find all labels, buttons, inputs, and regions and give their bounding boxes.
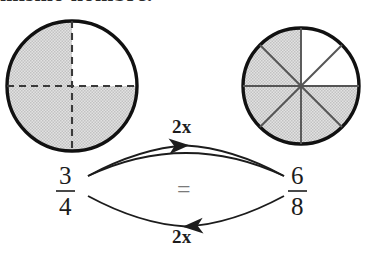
arrow-top-left-half — [88, 146, 186, 177]
arrow-top-label: 2x — [172, 116, 192, 138]
fraction-right-denominator: 8 — [288, 194, 307, 219]
fraction-right-numerator: 6 — [288, 163, 307, 188]
figure-canvas: mismo nombre. — [0, 0, 369, 253]
fraction-left-bar — [56, 190, 75, 192]
fraction-right-bar — [288, 190, 307, 192]
fraction-left-denominator: 4 — [56, 194, 75, 219]
arrow-top-right-half — [186, 146, 284, 177]
fraction-right: 6 8 — [288, 163, 307, 219]
arrow-bottom-label: 2x — [172, 226, 192, 248]
arrow-bottom-right-half — [186, 196, 284, 227]
fraction-left: 3 4 — [56, 163, 75, 219]
arrow-bottom-left-half — [88, 196, 186, 227]
right-pie-chart — [243, 28, 359, 144]
fraction-left-numerator: 3 — [56, 163, 75, 188]
equals-symbol: = — [177, 176, 191, 203]
left-pie-chart — [7, 21, 137, 151]
arrow-top-curve — [88, 153, 284, 176]
